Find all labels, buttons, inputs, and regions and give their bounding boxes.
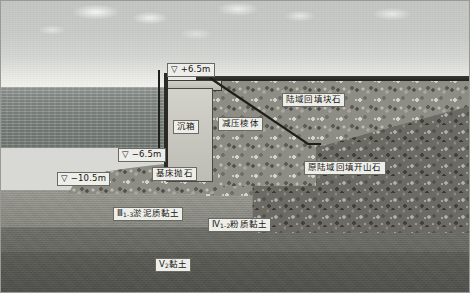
label-land-backfill-block-stone: 陆域回填块石 <box>282 93 345 107</box>
elevation-marker-bottom: ▽ −10.5m <box>57 172 110 186</box>
quay-face-line <box>164 73 168 181</box>
stratum-3-sub: 1-3 <box>123 211 133 218</box>
elevation-marker-mid: ▽ −6.5m <box>118 148 166 162</box>
label-stratum-3: Ⅲ1-3淤泥质黏土 <box>113 207 183 221</box>
stratum-3-name: 淤泥质黏土 <box>133 208 179 218</box>
label-caisson: 沉箱 <box>173 120 199 134</box>
stratum-4-name: 粉质黏土 <box>230 219 267 229</box>
cross-section-figure: ▽ +6.5m ▽ −6.5m ▽ −10.5m 沉箱 减压棱体 基床抛石 陆域… <box>0 0 470 293</box>
stratum-5-clay <box>0 252 470 293</box>
stratum-4-sub: 1-2 <box>220 222 230 229</box>
fender-pile <box>158 70 160 158</box>
stratum-5-texture <box>0 252 470 293</box>
stratum-5-sub: 2 <box>165 262 169 269</box>
label-stratum-5: Ⅴ2黏土 <box>155 258 191 272</box>
stratum-5-name: 黏土 <box>169 259 187 269</box>
label-stratum-4: Ⅳ1-2粉质黏土 <box>208 218 271 232</box>
wharf-deck <box>196 76 470 81</box>
label-bedding-riprap: 基床抛石 <box>152 167 197 181</box>
stratum-4-code: Ⅳ <box>212 219 220 229</box>
sky-region <box>0 0 470 87</box>
sky-texture <box>0 0 470 87</box>
label-original-backfill-blast-rock: 原陆域回填开山石 <box>304 161 386 175</box>
label-relief-prism: 减压棱体 <box>218 117 263 131</box>
elevation-marker-top: ▽ +6.5m <box>167 63 215 77</box>
